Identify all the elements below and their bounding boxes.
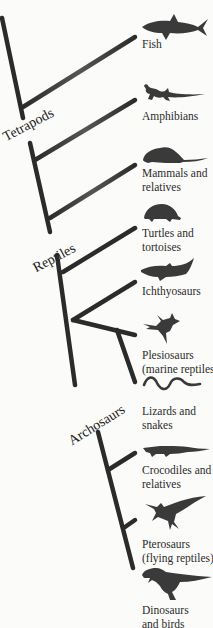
taxon-label-ichthyosaurs: Ichthyosaurs: [142, 284, 201, 298]
root-trunk: [2, 18, 23, 118]
taxon-label-lizards: Lizards and snakes: [142, 404, 196, 432]
trex-icon: [142, 568, 212, 600]
salamander-icon: [144, 84, 205, 101]
archosaurs-trunk: [98, 432, 133, 568]
branch-lizards: [117, 330, 135, 382]
branch-pterosaurs: [125, 520, 135, 527]
branch-plesiosaurs: [73, 320, 135, 335]
crocodile-icon: [143, 446, 210, 457]
snake-icon: [144, 378, 200, 390]
branch-crocodiles: [108, 453, 135, 470]
cladogram-branches: [0, 0, 213, 628]
taxon-label-amphibians: Amphibians: [142, 109, 198, 123]
branch-mammals: [50, 165, 135, 218]
pterosaur-icon: [145, 496, 206, 530]
taxon-label-crocodiles: Crocodiles and relatives: [142, 463, 211, 491]
taxon-label-pterosaurs: Pterosaurs (flying reptiles): [142, 537, 213, 565]
branch-fish: [23, 37, 135, 107]
taxon-label-plesiosaurs: Plesiosaurs (marine reptiles): [142, 348, 213, 376]
taxon-label-fish: Fish: [142, 37, 162, 51]
tortoise-icon: [144, 204, 181, 222]
rat-icon: [143, 147, 208, 163]
branch-ichthyosaurs: [73, 282, 135, 320]
taxon-label-turtles: Turtles and tortoises: [142, 226, 194, 254]
plesiosaur-icon: [143, 313, 180, 344]
ichthyosaur-icon: [141, 258, 194, 281]
taxon-label-dinosaurs: Dinosaurs and birds: [142, 603, 189, 628]
taxon-label-mammals: Mammals and relatives: [142, 166, 207, 194]
